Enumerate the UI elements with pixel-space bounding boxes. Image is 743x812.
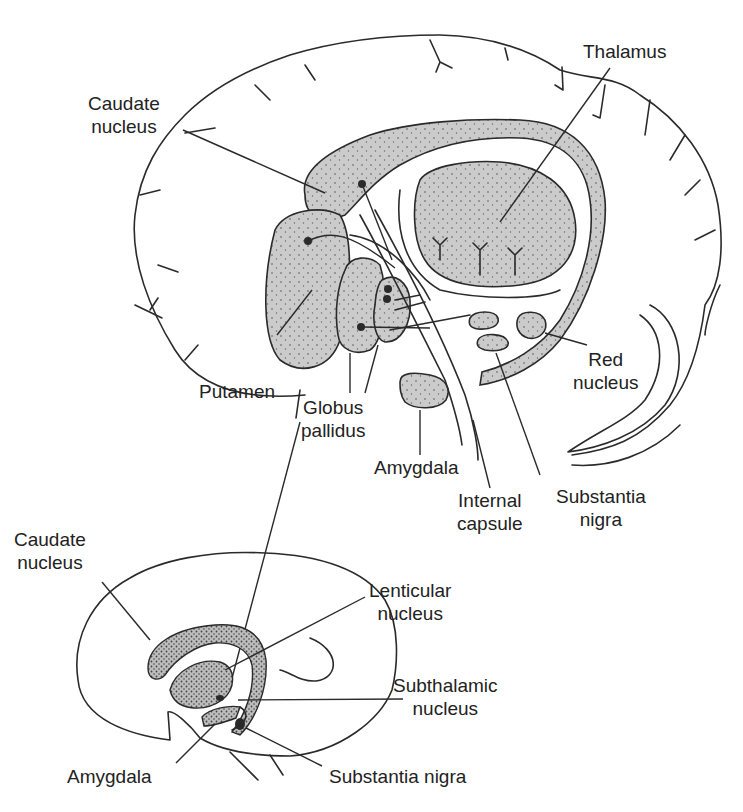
top-red-nucleus: [517, 312, 546, 338]
top-globus-pallidus-int: [374, 277, 410, 342]
label-amygdala-top: Amygdala: [374, 456, 459, 479]
bottom-amygdala: [202, 706, 240, 726]
top-thalamus: [415, 162, 576, 287]
top-amygdala: [400, 373, 448, 408]
basal-ganglia-diagram: Caudate nucleus Thalamus Putamen Globus …: [0, 0, 743, 812]
label-caudate-nucleus-top: Caudate nucleus: [88, 92, 160, 138]
label-subthalamic-nucleus: Subthalamic nucleus: [393, 674, 498, 720]
bottom-subthalamic-dot: [216, 695, 224, 701]
label-lenticular-nucleus: Lenticular nucleus: [369, 579, 451, 625]
bottom-lenticular-nucleus: [170, 661, 233, 708]
label-red-nucleus: Red nucleus: [573, 348, 639, 394]
label-caudate-nucleus-bottom: Caudate nucleus: [14, 528, 86, 574]
label-substantia-nigra-top: Substantia nigra: [556, 485, 646, 531]
label-putamen: Putamen: [199, 380, 275, 403]
label-internal-capsule: Internal capsule: [457, 489, 523, 535]
top-subthalamic: [469, 312, 498, 329]
label-amygdala-bottom: Amygdala: [67, 765, 152, 788]
label-thalamus: Thalamus: [583, 40, 666, 63]
label-globus-pallidus: Globus pallidus: [301, 396, 365, 442]
label-substantia-nigra-bottom: Substantia nigra: [329, 765, 466, 788]
top-putamen: [266, 210, 350, 368]
top-substantia-nigra: [477, 335, 508, 351]
